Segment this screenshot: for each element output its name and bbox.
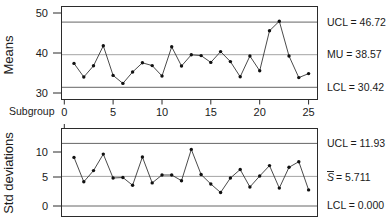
std-ytick-0: 0 bbox=[42, 200, 48, 212]
means-series-line bbox=[74, 21, 309, 83]
means-xtick-10: 10 bbox=[156, 106, 168, 118]
std-lcl-label: LCL = 0.000 bbox=[327, 199, 384, 211]
means-ytick-50: 50 bbox=[36, 7, 48, 19]
means-xtick-15: 15 bbox=[205, 106, 217, 118]
means-y-axis-title: Means bbox=[1, 35, 16, 75]
std-ucl-label: UCL = 11.93 bbox=[327, 137, 385, 149]
control-chart-figure: Means 50 40 30 bbox=[0, 0, 391, 224]
sbar-value: = 5.711 bbox=[336, 171, 371, 183]
figure-canvas: Means 50 40 30 bbox=[0, 0, 391, 224]
means-xtick-20: 20 bbox=[254, 106, 266, 118]
sbar-symbol: S bbox=[327, 171, 334, 183]
std-plot-frame bbox=[62, 129, 318, 217]
means-x-ticks bbox=[64, 100, 308, 105]
means-series-points bbox=[72, 20, 310, 86]
means-xtick-0: 0 bbox=[61, 106, 67, 118]
subgroup-axis-label: Subgroup bbox=[9, 105, 55, 117]
std-ytick-5: 5 bbox=[42, 171, 48, 183]
means-ytick-40: 40 bbox=[36, 47, 48, 59]
means-xtick-5: 5 bbox=[110, 106, 116, 118]
means-lcl-label: LCL = 30.42 bbox=[327, 81, 384, 93]
means-xtick-25: 25 bbox=[302, 106, 314, 118]
std-sbar-label: S = 5.711 bbox=[327, 171, 371, 183]
means-ytick-30: 30 bbox=[36, 87, 48, 99]
means-mu-label: MU = 38.57 bbox=[327, 48, 382, 60]
std-ytick-10: 10 bbox=[36, 146, 48, 158]
std-series-line bbox=[74, 149, 309, 192]
std-deviations-chart: Std deviations 10 5 0 bbox=[1, 124, 385, 217]
means-chart: Means 50 40 30 bbox=[1, 7, 386, 119]
means-ucl-label: UCL = 46.72 bbox=[327, 16, 386, 28]
std-y-axis-title: Std deviations bbox=[1, 132, 16, 214]
std-series-points bbox=[72, 148, 310, 195]
